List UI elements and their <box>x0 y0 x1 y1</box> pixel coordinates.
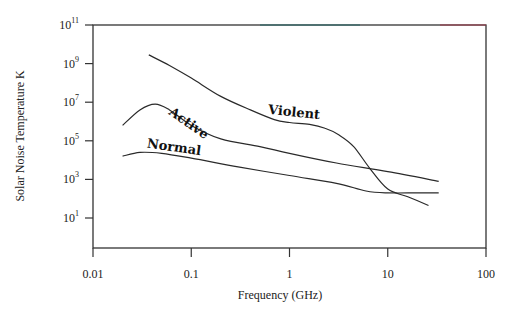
data-series <box>123 55 439 206</box>
solar-noise-chart: 0.010.1110100 1011109107105103101 Violen… <box>0 0 511 321</box>
x-tick-label: 0.1 <box>184 267 199 281</box>
x-axis: 0.010.1110100 <box>83 248 496 281</box>
series-labels: ViolentActiveNormal <box>146 102 321 158</box>
y-tick-label: 109 <box>63 55 79 71</box>
y-tick-label: 107 <box>63 93 79 109</box>
x-axis-title: Frequency (GHz) <box>238 288 322 302</box>
y-axis-title: Solar Noise Temperature K <box>13 70 27 202</box>
y-tick-label: 1011 <box>59 16 79 32</box>
x-tick-label: 10 <box>382 267 394 281</box>
x-tick-label: 1 <box>287 267 293 281</box>
series-label-active: Active <box>165 103 211 142</box>
y-tick-label: 103 <box>63 170 79 186</box>
y-tick-label: 105 <box>63 132 79 148</box>
y-axis: 1011109107105103101 <box>59 16 93 225</box>
x-tick-label: 100 <box>477 267 495 281</box>
x-tick-label: 0.01 <box>83 267 104 281</box>
y-tick-label: 101 <box>63 209 79 225</box>
